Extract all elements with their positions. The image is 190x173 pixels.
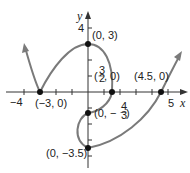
y-axis-label: y — [76, 9, 83, 23]
label-4.5-0: (4.5, 0) — [134, 70, 169, 82]
point-neg3-0 — [37, 89, 43, 95]
curve-arrow-left-icon — [22, 43, 29, 53]
tick-label-neg4: −4 — [10, 96, 23, 108]
label-0-neg4over3: (0, − 4 3 ) — [94, 100, 130, 121]
x-axis-label: x — [179, 96, 186, 110]
point-4.5-0 — [158, 89, 164, 95]
graph: y x 4 −4 5 (−3, 0) (0, 3) ( 3 2 , 0) (0,… — [0, 0, 190, 173]
curve-arrow-right-icon — [174, 51, 182, 61]
tick-label-5: 5 — [168, 97, 174, 109]
svg-text:(0, −: (0, − — [94, 107, 116, 119]
curve — [25, 44, 180, 148]
label-0-neg3.5: (0, −3.5) — [46, 147, 87, 159]
y-axis-arrow-icon — [85, 11, 91, 19]
label-neg3-0: (−3, 0) — [35, 97, 67, 109]
label-0-3: (0, 3) — [92, 29, 118, 41]
point-1.5-0 — [109, 89, 115, 95]
svg-text:): ) — [126, 107, 130, 119]
y-axis — [85, 11, 92, 168]
svg-text:, 0): , 0) — [104, 70, 120, 82]
points — [37, 41, 164, 151]
point-0-3 — [85, 41, 91, 47]
x-axis-arrow-icon — [180, 89, 188, 95]
tick-label-4: 4 — [78, 22, 84, 34]
label-3over2-0: ( 3 2 , 0) — [94, 64, 120, 84]
point-0-neg4over3 — [85, 110, 91, 116]
svg-text:(: ( — [94, 70, 98, 82]
